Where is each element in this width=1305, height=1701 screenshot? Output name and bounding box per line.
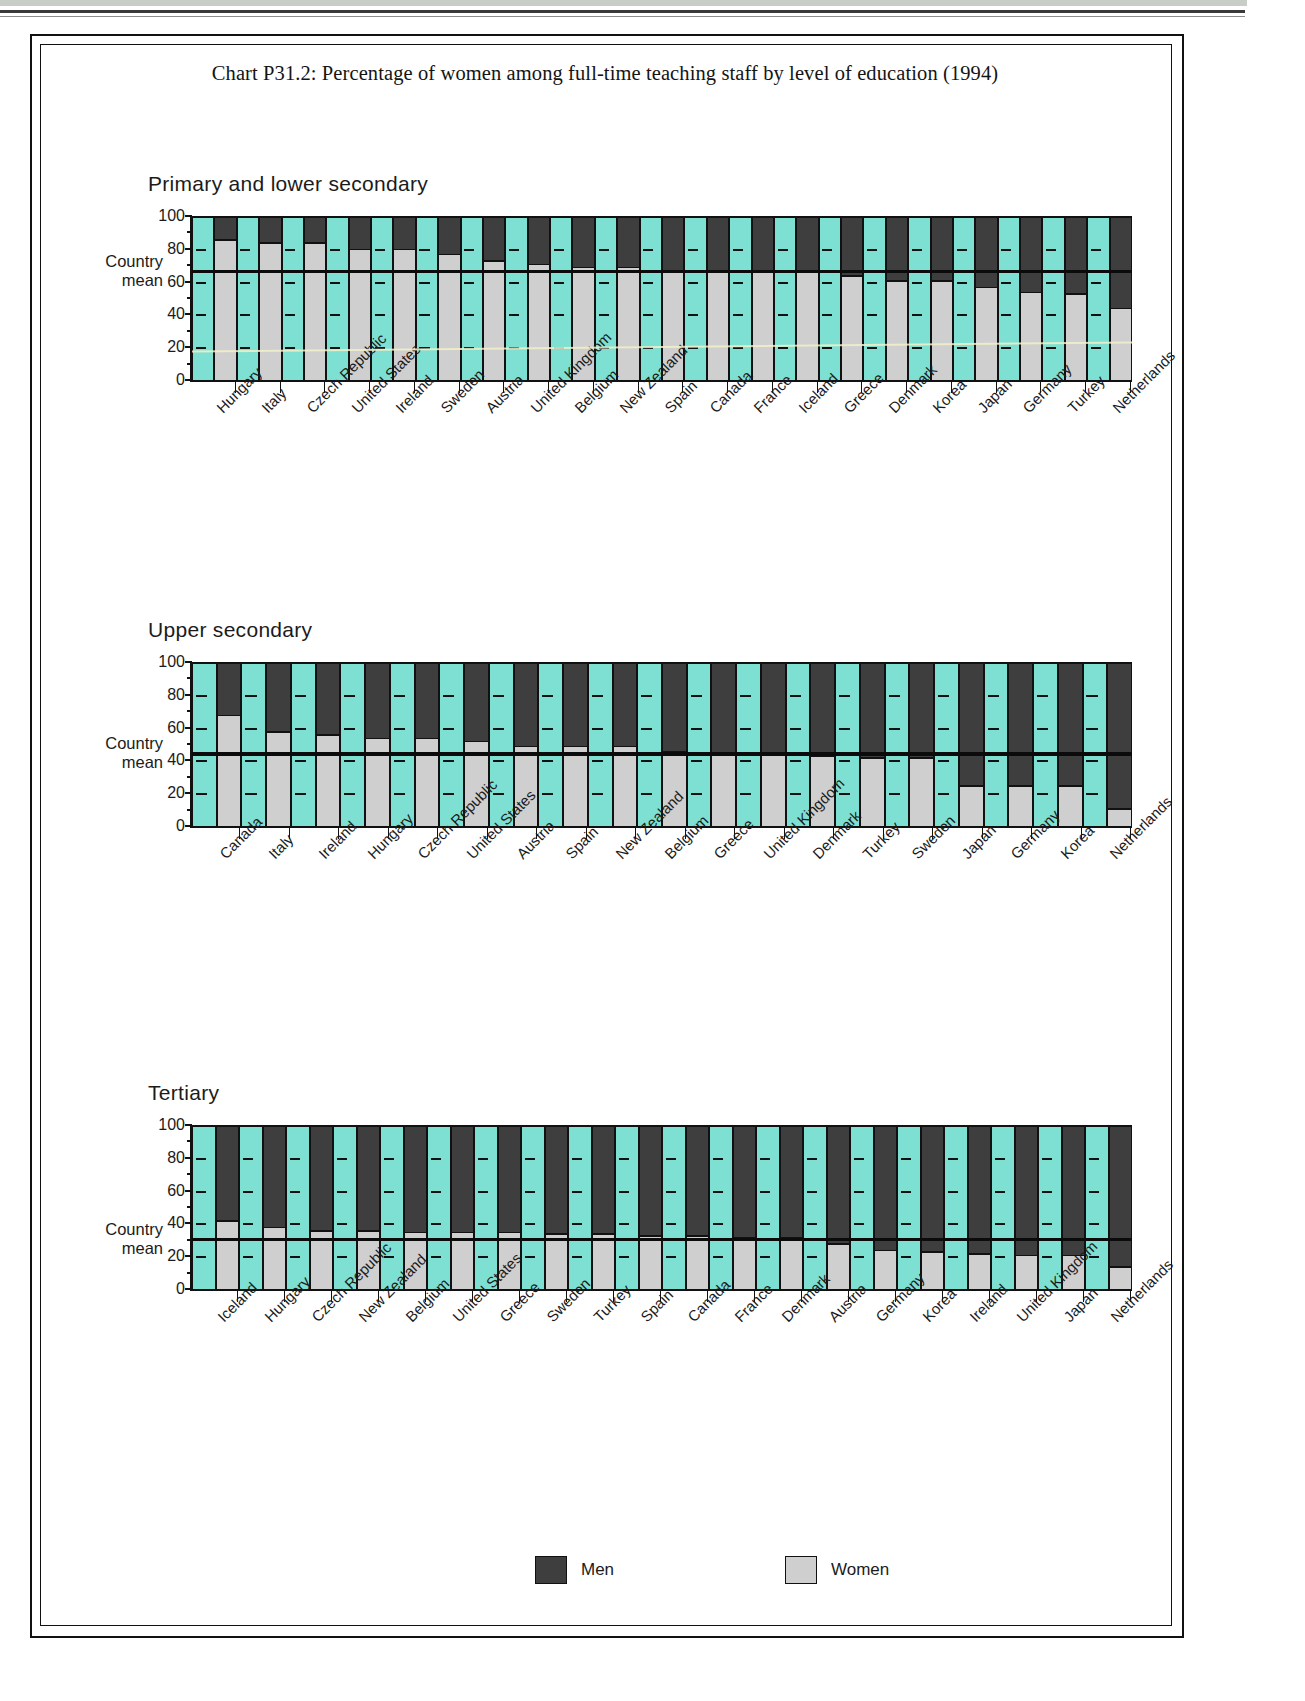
bar-column[interactable] (761, 662, 786, 826)
bar-column[interactable] (592, 1125, 616, 1289)
bar-segment-men (546, 1125, 568, 1235)
bar-shell (217, 662, 242, 826)
bar-column[interactable] (860, 662, 885, 826)
bar-column[interactable] (1109, 1125, 1133, 1289)
interior-dash (1001, 249, 1011, 251)
bar-top-cap (708, 216, 728, 218)
bar-segment-divider (529, 264, 549, 266)
bar-column[interactable] (827, 1125, 851, 1289)
bar-segment-divider (1021, 292, 1041, 294)
bar-column[interactable] (1110, 216, 1132, 380)
bar-segment-women (861, 759, 884, 826)
bar-column[interactable] (752, 216, 774, 380)
bar-segment-divider (394, 249, 414, 251)
interior-dash (641, 760, 652, 762)
bar-column[interactable] (316, 662, 341, 826)
interior-dash (431, 1191, 442, 1193)
bar-top-cap (932, 216, 952, 218)
interior-dash (619, 1223, 630, 1225)
y-axis-tick (185, 825, 192, 827)
bar-segment-men (305, 216, 325, 244)
bar-column[interactable] (545, 1125, 569, 1289)
bar-top-cap (762, 662, 785, 664)
bar-column[interactable] (780, 1125, 804, 1289)
bar-column[interactable] (1020, 216, 1042, 380)
interior-dash (375, 249, 385, 251)
bar-column[interactable] (216, 1125, 240, 1289)
bar-top-cap (811, 662, 834, 664)
bar-column[interactable] (886, 216, 908, 380)
bar-column[interactable] (796, 216, 818, 380)
bar-segment-men (842, 216, 862, 277)
bar-column[interactable] (217, 662, 242, 826)
bar-column[interactable] (563, 662, 588, 826)
bar-column[interactable] (639, 1125, 663, 1289)
bar-shell (968, 1125, 992, 1289)
country-mean-label-1: Countrymean (48, 252, 163, 290)
bar-shell (214, 216, 236, 380)
bar-shell (266, 662, 291, 826)
bar-column[interactable] (415, 662, 440, 826)
bar-segment-men (734, 1125, 756, 1238)
bar-column[interactable] (1058, 662, 1083, 826)
bar-column[interactable] (1107, 662, 1132, 826)
bar-top-cap (640, 1125, 662, 1127)
background-band (756, 1125, 780, 1289)
background-band (550, 216, 572, 380)
interior-dash (995, 1223, 1006, 1225)
bar-column[interactable] (438, 216, 460, 380)
bar-segment-women (1009, 787, 1032, 826)
bar-column[interactable] (733, 1125, 757, 1289)
bar-column[interactable] (263, 1125, 287, 1289)
bar-segment-men (260, 216, 280, 244)
band-fill (1085, 1125, 1109, 1289)
bar-shell (886, 216, 908, 380)
bar-column[interactable] (707, 216, 729, 380)
bar-column[interactable] (909, 662, 934, 826)
bar-column[interactable] (214, 216, 236, 380)
bar-column[interactable] (528, 216, 550, 380)
interior-dash (337, 1191, 348, 1193)
bar-column[interactable] (1065, 216, 1087, 380)
y-axis-label: 20 (167, 338, 185, 356)
bar-top-cap (922, 1125, 944, 1127)
bar-column[interactable] (968, 1125, 992, 1289)
bar-column[interactable] (931, 216, 953, 380)
band-fill (474, 1125, 498, 1289)
band-fill (885, 662, 910, 826)
bar-shell (438, 216, 460, 380)
interior-dash (957, 314, 967, 316)
bar-shell (1058, 662, 1083, 826)
bar-shell (316, 662, 341, 826)
bar-segment-divider (311, 1230, 333, 1232)
bar-column[interactable] (921, 1125, 945, 1289)
band-fill (934, 662, 959, 826)
bar-column[interactable] (1008, 662, 1033, 826)
bar-column[interactable] (613, 662, 638, 826)
bar-column[interactable] (617, 216, 639, 380)
bar-column[interactable] (959, 662, 984, 826)
bar-column[interactable] (304, 216, 326, 380)
bar-column[interactable] (451, 1125, 475, 1289)
bar-top-cap (1016, 1125, 1038, 1127)
bar-column[interactable] (365, 662, 390, 826)
bar-column[interactable] (711, 662, 736, 826)
bar-column[interactable] (1015, 1125, 1039, 1289)
bar-segment-women (910, 759, 933, 826)
bar-column[interactable] (874, 1125, 898, 1289)
bar-column[interactable] (259, 216, 281, 380)
bar-column[interactable] (686, 1125, 710, 1289)
bar-top-cap (1111, 216, 1131, 218)
interior-dash (854, 1158, 865, 1160)
interior-dash (196, 1191, 207, 1193)
bar-column[interactable] (841, 216, 863, 380)
bar-column[interactable] (975, 216, 997, 380)
background-band (1033, 662, 1058, 826)
interior-dash (295, 760, 306, 762)
bar-column[interactable] (483, 216, 505, 380)
interior-dash (688, 314, 698, 316)
bar-column[interactable] (310, 1125, 334, 1289)
background-band (991, 1125, 1015, 1289)
interior-dash (854, 1256, 865, 1258)
bar-column[interactable] (266, 662, 291, 826)
